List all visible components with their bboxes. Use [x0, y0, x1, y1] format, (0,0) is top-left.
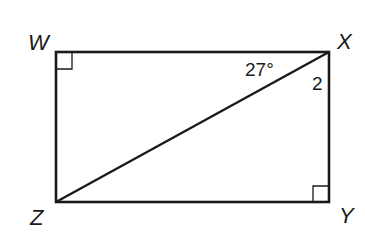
- rectangle-diagram: [0, 0, 365, 235]
- vertex-label-w: W: [28, 32, 49, 54]
- vertex-label-y: Y: [339, 205, 354, 227]
- vertex-label-x: X: [337, 31, 352, 53]
- diagonal-xz: [56, 52, 329, 202]
- vertex-label-z: Z: [30, 207, 43, 229]
- right-angle-marker-y: [313, 186, 328, 201]
- right-angle-marker-w: [57, 53, 72, 69]
- angle-label-2: 2: [312, 74, 323, 93]
- angle-label-27: 27°: [245, 60, 274, 79]
